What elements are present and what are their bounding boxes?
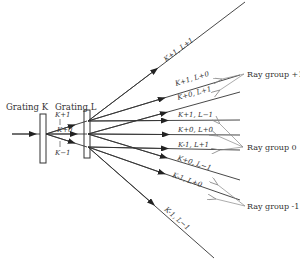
ray-group-minus1-label: Ray group -1 <box>247 202 299 211</box>
ray-label: K+1, L−1 <box>177 111 213 119</box>
ray-label: K+0, L+1 <box>175 85 212 102</box>
ray-label: K+0, L+0 <box>177 126 214 134</box>
k-order-minus-label: K−1 <box>54 149 71 157</box>
ray-label: K+1, L+1 <box>162 36 196 64</box>
group-pointers <box>216 74 245 206</box>
k-order-plus-label: K+1 <box>54 111 71 119</box>
grating-l-label: Grating L <box>55 102 97 112</box>
ray-label: K-1, L+1 <box>177 141 209 149</box>
ray-group-0-label: Ray group 0 <box>247 143 297 152</box>
outgoing-rays <box>88 2 245 258</box>
ray-group-plus1-label: Ray group +1 <box>247 70 300 79</box>
grating-k-label: Grating K <box>6 102 49 112</box>
ray-label: K-1, L+0 <box>170 171 203 189</box>
k-order-zero-label: K+0 <box>56 126 73 134</box>
diffraction-diagram: K+1 K+0 K−1 Grating K Grating L K+1, L+1… <box>0 0 300 268</box>
ray-label: K+0, L−1 <box>175 154 212 172</box>
grating-k <box>40 114 46 163</box>
k-diffracted-rays <box>46 121 87 147</box>
ray-label: K-1, L−1 <box>162 205 191 232</box>
